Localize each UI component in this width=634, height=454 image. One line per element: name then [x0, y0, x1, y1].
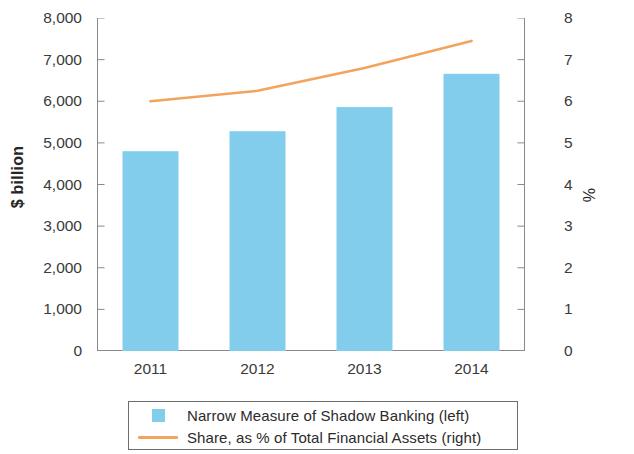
bar	[123, 151, 179, 351]
y-axis-right-ticks: 876543210	[560, 0, 600, 360]
chart-legend: Narrow Measure of Shadow Banking (left) …	[128, 401, 518, 450]
y-axis-left-tick-label: 4,000	[43, 177, 82, 193]
x-axis-tick-label: 2011	[116, 360, 186, 378]
y-axis-right-tick-label: 0	[564, 343, 573, 359]
y-axis-right-tick-label: 2	[564, 260, 573, 276]
y-axis-right-tick-label: 6	[564, 93, 573, 109]
y-axis-left-tick-label: 7,000	[43, 52, 82, 68]
bar	[337, 107, 393, 351]
legend-label-bar: Narrow Measure of Shadow Banking (left)	[187, 407, 469, 424]
plot-area	[97, 18, 525, 351]
y-axis-right-tick-label: 3	[564, 218, 573, 234]
plot-svg	[97, 18, 525, 351]
y-axis-left-tick-label: 6,000	[43, 93, 82, 109]
x-axis-ticks: 2011201220132014	[97, 360, 525, 388]
line-swatch-icon	[129, 436, 187, 439]
legend-item-bar: Narrow Measure of Shadow Banking (left)	[129, 404, 517, 427]
x-axis-tick-label: 2012	[223, 360, 293, 378]
legend-item-line: Share, as % of Total Financial Assets (r…	[129, 426, 517, 449]
bar	[230, 131, 286, 351]
chart-container: $ billion % 8,0007,0006,0005,0004,0003,0…	[0, 0, 634, 454]
y-axis-left-tick-label: 2,000	[43, 260, 82, 276]
x-axis-tick-label: 2014	[437, 360, 507, 378]
y-axis-right-tick-label: 8	[564, 10, 573, 26]
y-axis-left-tick-label: 8,000	[43, 10, 82, 26]
bar	[444, 74, 500, 351]
x-axis-tick-label: 2013	[330, 360, 400, 378]
y-axis-left-ticks: 8,0007,0006,0005,0004,0003,0002,0001,000…	[0, 0, 90, 360]
y-axis-right-tick-label: 1	[564, 301, 573, 317]
y-axis-right-tick-label: 4	[564, 177, 573, 193]
line-series-path	[151, 41, 472, 101]
y-axis-right-tick-label: 7	[564, 52, 573, 68]
legend-label-line: Share, as % of Total Financial Assets (r…	[187, 429, 481, 446]
bar-swatch-icon	[129, 409, 187, 422]
y-axis-left-tick-label: 1,000	[43, 301, 82, 317]
y-axis-left-tick-label: 0	[73, 343, 82, 359]
y-axis-right-tick-label: 5	[564, 135, 573, 151]
y-axis-left-tick-label: 5,000	[43, 135, 82, 151]
y-axis-left-tick-label: 3,000	[43, 218, 82, 234]
